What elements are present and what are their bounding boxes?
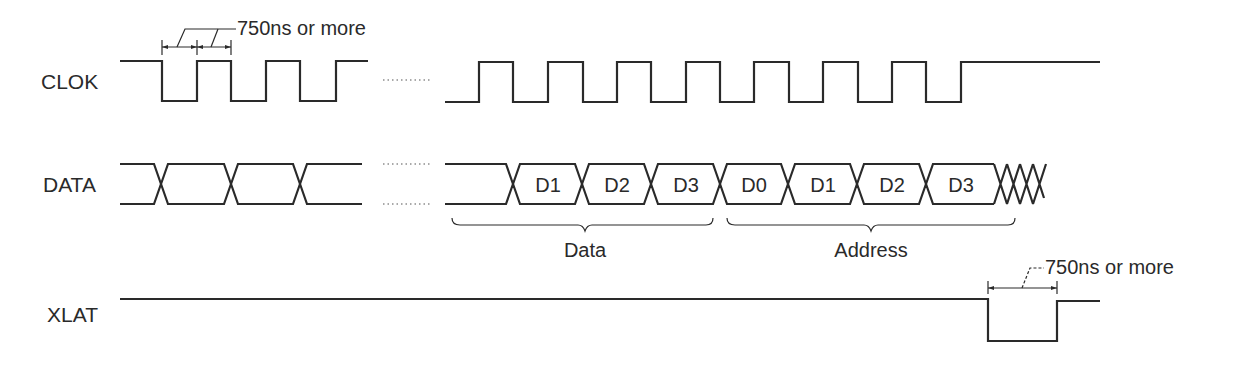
xlat-waveform bbox=[120, 299, 1100, 341]
address-group-label: Address bbox=[834, 239, 907, 261]
signal-label-xlat: XLAT bbox=[47, 303, 98, 326]
address-cell-d1: D1 bbox=[810, 174, 836, 196]
data-cell-d3: D3 bbox=[673, 174, 699, 196]
data-group-brace bbox=[452, 218, 713, 231]
timing-diagram: CLOK DATA XLAT 750ns or more D1 D2 D3 D0… bbox=[0, 0, 1242, 365]
clok-waveform-left bbox=[120, 61, 368, 101]
data-dont-care-hatch bbox=[994, 164, 1046, 204]
data-cell-d1: D1 bbox=[535, 174, 561, 196]
address-cell-d0: D0 bbox=[741, 174, 767, 196]
address-cell-d2: D2 bbox=[879, 174, 905, 196]
data-group-label: Data bbox=[564, 239, 607, 261]
latch-timing-label: 750ns or more bbox=[1045, 256, 1174, 278]
data-waveform-left-bottom bbox=[120, 184, 362, 204]
clock-timing-dimension bbox=[162, 29, 236, 55]
address-cell-d3: D3 bbox=[948, 174, 974, 196]
address-group-brace bbox=[727, 218, 1015, 231]
data-waveform-right-top bbox=[445, 164, 994, 184]
clock-timing-label: 750ns or more bbox=[237, 17, 366, 39]
signal-label-data: DATA bbox=[43, 173, 96, 196]
data-cell-d2: D2 bbox=[604, 174, 630, 196]
data-waveform-left-top bbox=[120, 164, 362, 184]
clok-waveform-right bbox=[445, 62, 1100, 102]
data-waveform-right-bottom bbox=[445, 184, 994, 204]
signal-label-clok: CLOK bbox=[41, 70, 98, 93]
